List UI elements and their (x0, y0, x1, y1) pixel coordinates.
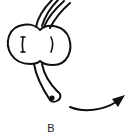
panel-label: B (46, 122, 56, 134)
diagram-drawing (0, 0, 129, 137)
bilobed-body (8, 25, 70, 65)
upper-tubes (36, 0, 70, 28)
lower-tube (34, 64, 60, 102)
anatomical-diagram: B (0, 0, 129, 137)
lobe-markings (21, 37, 53, 52)
curved-arrow-icon (70, 95, 125, 110)
